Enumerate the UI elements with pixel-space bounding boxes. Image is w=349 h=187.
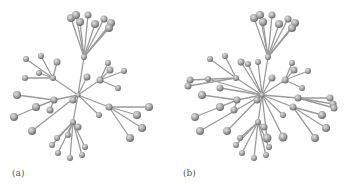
- graph-node: [205, 76, 211, 82]
- graph-node: [72, 11, 80, 19]
- graph-node: [239, 150, 245, 156]
- graph-edge: [202, 95, 237, 100]
- graph-node: [269, 75, 276, 82]
- graph-node: [254, 97, 261, 104]
- graph-node: [79, 152, 85, 158]
- graph-node: [70, 97, 77, 104]
- graph-node: [305, 68, 311, 74]
- graph-node: [28, 127, 36, 135]
- graph-node: [105, 60, 111, 66]
- graph-edge: [200, 95, 262, 131]
- graph-node: [97, 77, 104, 84]
- graph-edge: [17, 95, 54, 100]
- graph-node: [263, 134, 272, 143]
- graph-node: [187, 77, 194, 84]
- graph-edge: [236, 122, 258, 145]
- graph-node: [299, 85, 305, 91]
- graph-node: [266, 144, 272, 150]
- graph-edge: [262, 95, 283, 115]
- graph-node: [133, 111, 141, 119]
- graph-node: [216, 103, 224, 111]
- graph-node: [65, 132, 71, 138]
- graph-node: [91, 20, 99, 28]
- graph-node: [105, 24, 113, 32]
- graph-node: [280, 112, 286, 118]
- graph-node: [233, 142, 239, 148]
- graph-node: [76, 93, 81, 98]
- graph-node: [96, 112, 102, 118]
- graph-node: [295, 95, 302, 102]
- graph-node: [191, 113, 199, 121]
- graph-edge: [268, 28, 292, 57]
- graph-node: [106, 104, 113, 111]
- graph-node: [263, 152, 269, 158]
- graph-node: [322, 124, 330, 132]
- graph-node: [55, 150, 61, 156]
- graph-node: [101, 16, 108, 23]
- graph-node: [54, 59, 61, 66]
- graph-node: [13, 91, 21, 99]
- graph-node: [38, 53, 44, 59]
- graph-node: [115, 85, 121, 91]
- graph-node: [10, 113, 18, 121]
- graph-node: [223, 127, 231, 135]
- graph-node: [311, 134, 319, 142]
- graph-node: [265, 54, 271, 60]
- figure-canvas: [0, 0, 349, 187]
- graph-node: [81, 54, 87, 60]
- graph-node: [67, 155, 73, 161]
- graph-node: [84, 74, 91, 81]
- graph-node: [49, 142, 55, 148]
- graph-node: [85, 12, 92, 19]
- graph-node: [145, 103, 153, 111]
- graph-node: [275, 20, 283, 28]
- graph-node: [318, 111, 326, 119]
- graph-edge: [53, 78, 78, 95]
- graph-node: [185, 83, 192, 90]
- graph-node: [138, 124, 146, 132]
- graph-node: [196, 127, 204, 135]
- graph-node: [256, 11, 264, 19]
- graph-node: [47, 107, 54, 114]
- graph-node: [36, 70, 42, 76]
- graph-node: [231, 107, 238, 114]
- graph-node: [255, 119, 261, 125]
- graph-node: [75, 124, 82, 131]
- graph-node: [234, 97, 241, 104]
- graph-node: [76, 18, 84, 26]
- graph-node: [245, 61, 251, 67]
- graph-node: [54, 135, 60, 141]
- graph-node: [107, 67, 114, 74]
- graph-node: [291, 67, 298, 74]
- panel-a-graph: [10, 11, 153, 161]
- graph-node: [260, 93, 265, 98]
- graph-node: [269, 12, 276, 19]
- graph-node: [238, 59, 245, 66]
- graph-node: [290, 104, 297, 111]
- panel-b-label: (b): [183, 168, 196, 178]
- graph-node: [198, 91, 206, 99]
- graph-node: [50, 75, 56, 81]
- graph-node: [282, 77, 289, 84]
- graph-node: [70, 119, 76, 125]
- graph-edge: [210, 59, 236, 78]
- graph-node: [22, 75, 28, 81]
- graph-node: [126, 134, 134, 142]
- graph-edge: [78, 95, 109, 107]
- panel-b-graph: [185, 11, 338, 161]
- graph-node: [23, 56, 29, 62]
- graph-node: [279, 133, 288, 142]
- graph-node: [32, 103, 40, 111]
- graph-node: [217, 85, 224, 92]
- graph-node: [121, 68, 127, 74]
- graph-node: [327, 95, 334, 102]
- graph-node: [331, 105, 338, 112]
- graph-node: [51, 97, 58, 104]
- graph-node: [259, 18, 267, 26]
- graph-node: [222, 53, 228, 59]
- graph-node: [251, 155, 257, 161]
- graph-node: [237, 135, 243, 141]
- graph-node: [207, 56, 213, 62]
- panel-a-label: (a): [12, 168, 24, 178]
- graph-node: [233, 75, 239, 81]
